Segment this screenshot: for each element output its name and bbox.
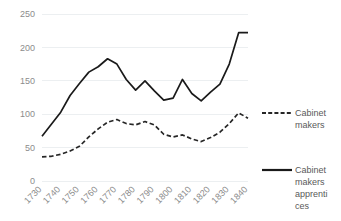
y-tick-label: 50 xyxy=(25,143,35,153)
legend-label-line: ces xyxy=(295,201,310,211)
line-chart: 050100150200250 173017401750176017701780… xyxy=(0,0,341,221)
y-tick-label: 250 xyxy=(20,9,35,19)
y-tick-label: 0 xyxy=(30,176,35,186)
y-tick-label: 150 xyxy=(20,76,35,86)
legend-label-line: Cabinet xyxy=(295,108,327,118)
legend-label-line: makers xyxy=(295,120,325,130)
y-tick-label: 100 xyxy=(20,109,35,119)
legend-label-line: apprenti xyxy=(295,189,328,199)
chart-canvas: 050100150200250 173017401750176017701780… xyxy=(0,0,341,221)
y-tick-label: 200 xyxy=(20,43,35,53)
legend-label-line: Cabinet xyxy=(295,165,327,175)
legend-label-line: makers xyxy=(295,177,325,187)
